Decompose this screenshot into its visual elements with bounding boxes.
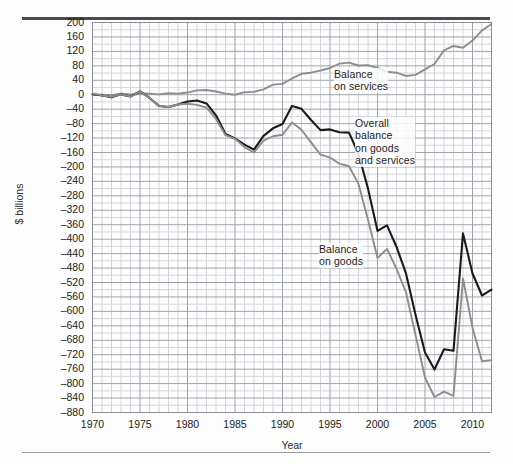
y-tick-label: –40: [26, 102, 84, 114]
annotation-balance-on-services: Balance on services: [334, 68, 388, 93]
y-tick-label: –80: [26, 117, 84, 129]
y-tick-label: 40: [26, 73, 84, 85]
y-tick-label: –440: [26, 247, 84, 259]
y-tick-label: 0: [26, 88, 84, 100]
y-tick-label: –480: [26, 261, 84, 273]
y-tick-label: –200: [26, 160, 84, 172]
annotation-overall-balance: Overall balance on goods and services: [355, 117, 415, 167]
minor-gridlines: [93, 23, 492, 413]
y-tick-label: –360: [26, 218, 84, 230]
y-tick-label: –600: [26, 304, 84, 316]
y-tick-label: –760: [26, 362, 84, 374]
y-tick-label: –280: [26, 189, 84, 201]
y-tick-label: –720: [26, 348, 84, 360]
annotation-balance-on-goods: Balance on goods: [319, 243, 363, 268]
y-tick-label: –680: [26, 333, 84, 345]
y-tick-label: –160: [26, 146, 84, 158]
y-tick-label: –400: [26, 232, 84, 244]
y-tick-label: –840: [26, 391, 84, 403]
x-tick-label: 2010: [443, 418, 503, 430]
y-tick-label: 160: [26, 30, 84, 42]
y-tick-label: –240: [26, 174, 84, 186]
y-tick-label: 200: [26, 16, 84, 28]
y-tick-label: 120: [26, 44, 84, 56]
y-tick-label: –880: [26, 406, 84, 418]
y-tick-label: –640: [26, 319, 84, 331]
y-tick-label: –320: [26, 203, 84, 215]
y-tick-label: 80: [26, 59, 84, 71]
y-tick-label: –560: [26, 290, 84, 302]
y-tick-label: –800: [26, 377, 84, 389]
chart-figure: $ billions Year 20016012080400–40–80–120…: [0, 0, 513, 464]
y-tick-label: –520: [26, 276, 84, 288]
y-tick-label: –120: [26, 131, 84, 143]
